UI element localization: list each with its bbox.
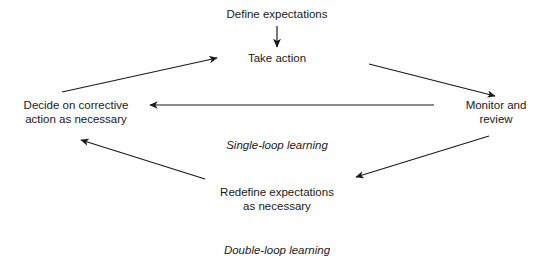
node-take-action: Take action bbox=[202, 51, 352, 65]
diagram-canvas: Define expectations Take action Monitor … bbox=[0, 0, 550, 277]
label-double-loop-learning: Double-loop learning bbox=[198, 243, 356, 257]
node-redefine-expectations: Redefine expectations as necessary bbox=[198, 185, 356, 213]
connector-redefine-to-decide bbox=[81, 140, 205, 179]
node-define-expectations: Define expectations bbox=[192, 7, 362, 21]
node-monitor-and-review: Monitor and review bbox=[446, 98, 546, 126]
connector-monitor-to-redefine bbox=[356, 136, 489, 177]
label-single-loop-learning: Single-loop learning bbox=[198, 138, 356, 152]
connector-decide-to-take-action bbox=[62, 58, 217, 92]
node-decide-on-corrective-action: Decide on corrective action as necessary bbox=[6, 98, 146, 126]
connector-take-action-to-monitor bbox=[369, 64, 495, 96]
